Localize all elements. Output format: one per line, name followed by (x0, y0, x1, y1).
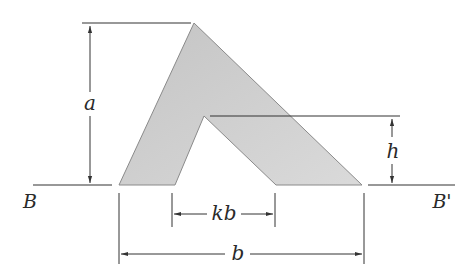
a-frame-shape (119, 23, 362, 185)
label-B: B (22, 190, 37, 212)
label-h: h (387, 139, 400, 163)
label-kb: kb (212, 201, 237, 225)
label-b: b (232, 241, 245, 265)
label-B-prime: B' (431, 190, 451, 212)
diagram-canvas: a h B B' kb b (0, 0, 472, 279)
label-a: a (84, 91, 96, 115)
